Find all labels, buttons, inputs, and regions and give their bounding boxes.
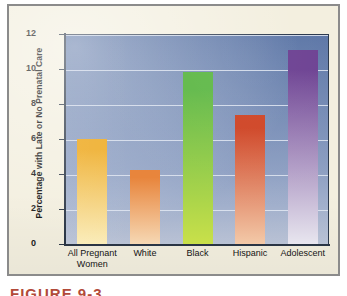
- bar-adolescent: [288, 50, 318, 244]
- gridline-12: [66, 35, 328, 36]
- y-tick-label-12: 12: [12, 28, 36, 38]
- x-label-line: Women: [56, 259, 128, 270]
- y-tick-label-4: 4: [12, 168, 36, 178]
- x-axis-line: [64, 244, 330, 246]
- y-tick-label-6: 6: [12, 133, 36, 143]
- y-tick-label-2: 2: [12, 203, 36, 213]
- figure-caption: FIGURE 9-3: [10, 286, 340, 296]
- bar-fill: [235, 115, 265, 245]
- bar-white: [130, 170, 160, 244]
- bar-fill: [130, 170, 160, 244]
- bar-fill: [77, 139, 107, 244]
- bar-all-pregnant-women: [77, 139, 107, 244]
- bar-fill: [183, 72, 213, 244]
- plot-area: [66, 34, 329, 244]
- y-tick-label-8: 8: [12, 98, 36, 108]
- y-tick-label-0: 0: [12, 238, 36, 248]
- bar-hispanic: [235, 115, 265, 245]
- figure-root: Percentage with Late or No Prenatal Care…: [0, 0, 347, 296]
- bar-fill: [288, 50, 318, 244]
- y-tick-label-10: 10: [12, 63, 36, 73]
- bar-black: [183, 72, 213, 244]
- x-label-line: Adolescent: [267, 248, 339, 259]
- x-axis-label-adolescent: Adolescent: [267, 248, 339, 259]
- figure-panel: Percentage with Late or No Prenatal Care…: [7, 4, 340, 276]
